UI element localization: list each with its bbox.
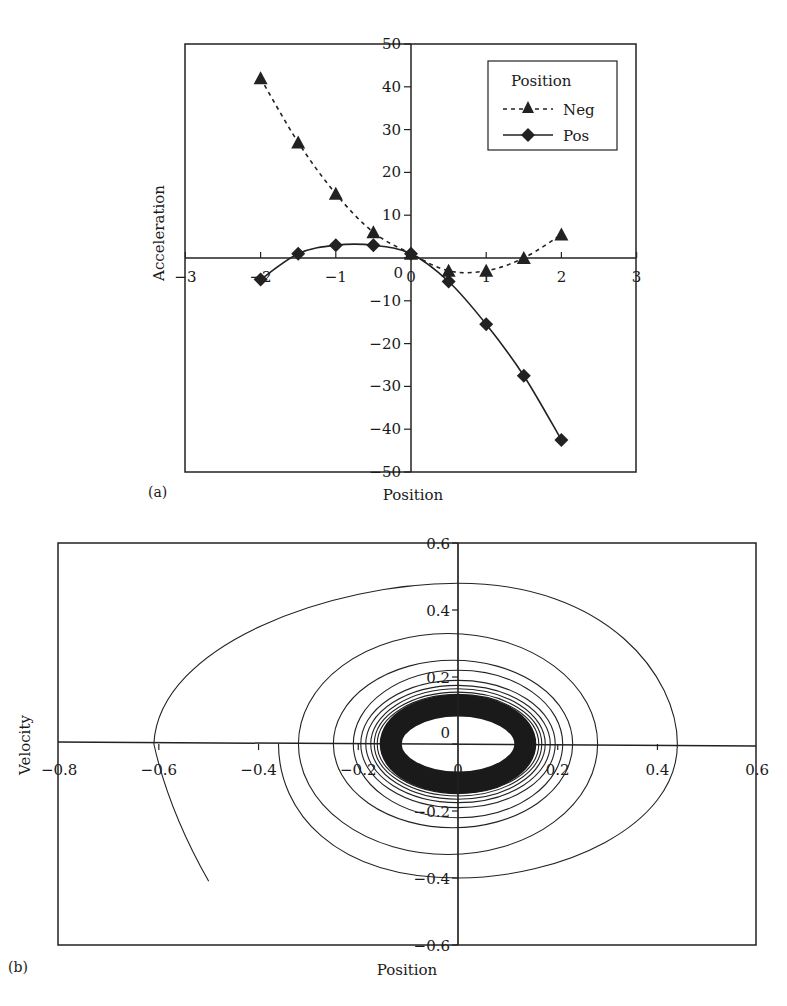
y-tick-label-a: −30 <box>369 377 401 395</box>
y-tick-label-a: 20 <box>382 163 401 181</box>
x-axis-label-b: Position <box>377 961 438 979</box>
x-tick-label-a: 3 <box>632 268 642 286</box>
x-tick-label-b: 0.6 <box>745 761 769 779</box>
legend-neg-label: Neg <box>563 101 595 119</box>
x-tick-label-b: −0.8 <box>41 761 77 779</box>
phase-trajectory-outer <box>154 583 678 881</box>
y-tick-label-b: 0.4 <box>426 602 450 620</box>
panel-label-a: (a) <box>148 484 167 500</box>
diamond-marker-icon <box>329 238 343 252</box>
chart-b: −0.8−0.6−0.4−0.200.20.40.6 0.60.40.20−0.… <box>8 535 769 979</box>
triangle-marker-icon <box>254 71 268 84</box>
x-tick-label-a: −1 <box>325 268 347 286</box>
legend-title: Position <box>511 72 572 90</box>
legend-a: Position Neg Pos <box>488 61 617 150</box>
x-tick-label-a: 2 <box>557 268 567 286</box>
diamond-marker-icon <box>366 238 380 252</box>
y-tick-label-a: 40 <box>382 78 401 96</box>
x-tick-label-b: −0.4 <box>240 761 276 779</box>
y-axis-label-a: Acceleration <box>150 185 168 282</box>
y-tick-label-a: −10 <box>369 292 401 310</box>
y-tick-label-a: −40 <box>369 420 401 438</box>
y-tick-label-a: −50 <box>369 463 401 481</box>
y-tick-label-a: 30 <box>382 121 401 139</box>
x-tick-label-a: −3 <box>174 268 196 286</box>
chart-a: −3−2−10123 50403020100−10−20−30−40−50 Po… <box>148 35 641 504</box>
x-tick-label-a: 0 <box>406 268 416 286</box>
y-tick-label-b: 0 <box>440 724 450 742</box>
y-tick-label-a: −20 <box>369 335 401 353</box>
figure: −3−2−10123 50403020100−10−20−30−40−50 Po… <box>0 0 787 1006</box>
x-tick-label-b: 0.4 <box>646 761 670 779</box>
legend-pos-label: Pos <box>563 127 589 145</box>
y-tick-label-a: 0 <box>393 264 403 282</box>
diamond-marker-icon <box>554 433 568 447</box>
y-tick-label-b: 0.6 <box>426 535 450 553</box>
x-axis-label-a: Position <box>383 486 444 504</box>
y-tick-label-b: −0.4 <box>414 870 450 888</box>
triangle-marker-icon <box>291 135 305 148</box>
diamond-marker-icon <box>517 369 531 383</box>
x-tick-label-b: 0.2 <box>546 761 570 779</box>
y-tick-label-a: 10 <box>382 206 401 224</box>
y-tick-label-a: 50 <box>382 35 401 53</box>
y-axis-label-b: Velocity <box>16 715 34 776</box>
triangle-marker-icon <box>554 227 568 240</box>
panel-label-b: (b) <box>8 959 28 975</box>
y-tick-label-b: −0.6 <box>414 937 450 955</box>
x-axis-b <box>58 742 756 746</box>
